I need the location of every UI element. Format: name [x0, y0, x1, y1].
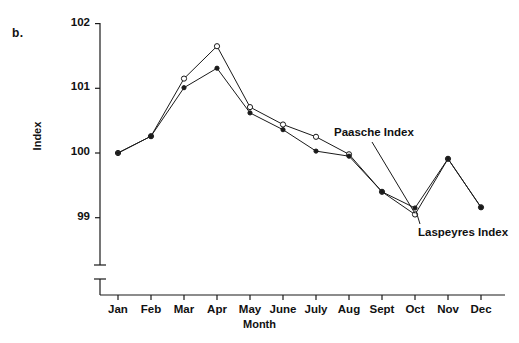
- data-point-marker: [380, 190, 384, 194]
- data-point-marker: [314, 149, 318, 153]
- data-point-marker: [215, 66, 219, 70]
- data-point-marker: [281, 128, 285, 132]
- series-group: [115, 44, 483, 217]
- data-point-marker: [116, 151, 120, 155]
- chart-figure: b. Index Month Paasche Index Laspeyres I…: [0, 0, 519, 343]
- data-point-marker: [247, 105, 252, 110]
- data-point-marker: [280, 122, 285, 127]
- data-point-marker: [182, 86, 186, 90]
- data-point-marker: [313, 134, 318, 139]
- data-point-marker: [413, 206, 417, 210]
- data-point-marker: [214, 44, 219, 49]
- data-point-marker: [347, 154, 351, 158]
- series-line: [118, 68, 481, 208]
- data-point-marker: [446, 157, 450, 161]
- data-point-marker: [479, 205, 483, 209]
- annotation-leader-group: [372, 142, 420, 224]
- data-point-marker: [149, 134, 153, 138]
- plot-canvas: [0, 0, 519, 343]
- data-point-marker: [181, 76, 186, 81]
- series-line: [118, 46, 481, 214]
- axes-group: [94, 23, 505, 300]
- data-point-marker: [248, 111, 252, 115]
